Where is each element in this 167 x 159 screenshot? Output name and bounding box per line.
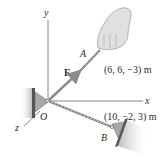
cable-ob <box>48 101 112 127</box>
x-axis-label: x <box>145 96 149 106</box>
diagram-graphics <box>0 0 167 159</box>
y-axis-label: y <box>44 8 48 18</box>
point-b-coordinates: (10, −2, 3) m <box>104 112 157 122</box>
point-b-label: B <box>101 133 107 143</box>
point-a-label: A <box>80 49 86 59</box>
origin-label: O <box>40 112 47 122</box>
force-label: F <box>64 68 70 78</box>
force-diagram: y x z O F A (6, 6, −3) m (10, −2, 3) m B <box>0 0 167 159</box>
right-wall-support <box>111 118 151 154</box>
z-axis-label: z <box>15 123 19 133</box>
hand-illustration <box>97 8 131 50</box>
point-a-coordinates: (6, 6, −3) m <box>104 65 152 75</box>
